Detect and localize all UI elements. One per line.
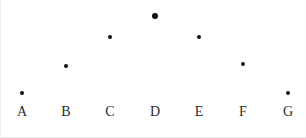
plot-area: ABCDEFG xyxy=(0,0,306,138)
x-axis-tick-label: C xyxy=(98,105,122,119)
data-point xyxy=(108,35,112,39)
x-axis-tick-label: A xyxy=(10,105,34,119)
data-point xyxy=(64,64,68,68)
data-point xyxy=(20,91,24,95)
x-axis-tick-label: G xyxy=(276,105,300,119)
data-point xyxy=(197,35,201,39)
data-point xyxy=(152,13,158,19)
data-point xyxy=(286,91,290,95)
data-point xyxy=(241,62,245,66)
x-axis-tick-label: F xyxy=(231,105,255,119)
x-axis-tick-label: D xyxy=(143,105,167,119)
x-axis-tick-label: B xyxy=(54,105,78,119)
x-axis-tick-label: E xyxy=(187,105,211,119)
scatter-plot-figure: ABCDEFG xyxy=(0,0,306,138)
